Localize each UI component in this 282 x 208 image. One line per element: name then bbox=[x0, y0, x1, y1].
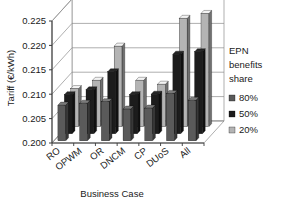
bar bbox=[101, 99, 112, 141]
bar-side-face bbox=[159, 91, 162, 134]
bar-side-face bbox=[109, 99, 112, 141]
bar-side-face bbox=[209, 10, 212, 126]
legend-swatch bbox=[229, 127, 235, 133]
grouped-bar-chart-3d: 0.2000.2050.2100.2150.2200.225 ROOPWMORD… bbox=[0, 0, 282, 208]
bar bbox=[188, 97, 199, 141]
y-axis-tick-label: 0.220 bbox=[22, 40, 46, 51]
bar-side-face bbox=[72, 92, 75, 134]
y-axis-tick-label: 0.210 bbox=[22, 89, 46, 100]
legend-title-line-3: share bbox=[229, 73, 253, 84]
bar-side-face bbox=[174, 90, 177, 140]
bar bbox=[58, 102, 69, 141]
bar-front-face bbox=[166, 93, 174, 140]
legend-swatch bbox=[229, 111, 235, 117]
bar-side-face bbox=[153, 105, 156, 141]
y-axis-tick-label: 0.200 bbox=[22, 137, 46, 148]
chart-container: 0.2000.2050.2100.2150.2200.225 ROOPWMORD… bbox=[0, 0, 282, 208]
y-axis-tick-label: 0.205 bbox=[22, 113, 46, 124]
bar-front-face bbox=[145, 108, 153, 141]
bar-side-face bbox=[196, 97, 199, 141]
bar-side-face bbox=[116, 69, 119, 134]
bar-front-face bbox=[123, 109, 131, 141]
bar-side-face bbox=[202, 49, 205, 134]
bar-front-face bbox=[80, 103, 88, 141]
bar bbox=[123, 106, 134, 141]
legend-entry-label: 20% bbox=[239, 124, 259, 135]
legend-swatch bbox=[229, 95, 235, 101]
legend-entries: 80%50%20% bbox=[229, 92, 259, 135]
bar bbox=[145, 105, 156, 141]
bar-side-face bbox=[137, 92, 140, 134]
bar-side-face bbox=[94, 87, 97, 134]
bar-side-face bbox=[66, 102, 69, 141]
bar-side-face bbox=[181, 51, 184, 134]
bar-side-face bbox=[87, 100, 90, 141]
y-axis-tick-label: 0.215 bbox=[22, 64, 46, 75]
legend-entry-label: 80% bbox=[239, 92, 259, 103]
bar-front-face bbox=[188, 100, 196, 141]
x-axis-title: Business Case bbox=[80, 188, 143, 199]
legend-title-line-2: benefits bbox=[229, 59, 263, 70]
legend-title-line-1: EPN bbox=[229, 45, 249, 56]
y-axis-title: Tariff (€/kWh) bbox=[5, 50, 16, 106]
y-axis-tick-label: 0.225 bbox=[22, 15, 46, 26]
bar bbox=[166, 90, 177, 140]
bar-side-face bbox=[131, 106, 134, 141]
bar-front-face bbox=[58, 105, 66, 141]
bar-front-face bbox=[101, 102, 109, 141]
bar bbox=[80, 100, 91, 141]
legend-entry-label: 50% bbox=[239, 108, 259, 119]
